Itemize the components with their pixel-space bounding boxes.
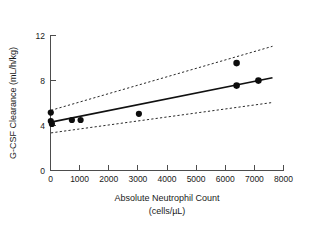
axis-titles: G-CSF Clearance (mL/h/kg) Absolute Neutr… — [8, 47, 220, 216]
data-point — [48, 110, 54, 116]
x-tick-label-7000: 7000 — [245, 174, 264, 184]
scatter-plot-figure: 12 8 4 0 0 1000 2000 3000 4000 5000 6000 — [0, 0, 314, 229]
data-point — [136, 111, 142, 117]
data-point — [69, 117, 75, 123]
x-axis-units-label: (cells/µL) — [149, 206, 186, 216]
y-tick-marks — [51, 36, 57, 171]
x-tick-label-1000: 1000 — [70, 174, 89, 184]
x-tick-labels: 0 1000 2000 3000 4000 5000 6000 7000 800… — [48, 174, 293, 184]
x-tick-label-2000: 2000 — [99, 174, 118, 184]
x-axis-title: Absolute Neutrophil Count — [114, 193, 220, 203]
y-axis-title: G-CSF Clearance (mL/h/kg) — [8, 47, 18, 159]
data-point — [255, 77, 262, 84]
data-point — [233, 60, 240, 67]
y-tick-label-0: 0 — [40, 166, 45, 176]
data-point — [233, 82, 240, 89]
x-tick-label-5000: 5000 — [187, 174, 206, 184]
confidence-band-group — [51, 46, 273, 133]
y-tick-label-12: 12 — [36, 31, 46, 41]
y-tick-label-8: 8 — [40, 76, 45, 86]
y-tick-label-4: 4 — [40, 121, 45, 131]
x-tick-label-0: 0 — [48, 174, 53, 184]
y-tick-labels: 12 8 4 0 — [36, 31, 46, 176]
x-tick-label-4000: 4000 — [158, 174, 177, 184]
x-tick-marks — [51, 165, 284, 171]
x-tick-label-6000: 6000 — [216, 174, 235, 184]
axes-group — [50, 35, 284, 171]
x-tick-label-3000: 3000 — [128, 174, 147, 184]
lower-confidence-band — [51, 103, 273, 133]
chart-canvas: 12 8 4 0 0 1000 2000 3000 4000 5000 6000 — [0, 0, 314, 229]
data-point — [49, 121, 55, 127]
x-tick-label-8000: 8000 — [274, 174, 293, 184]
data-point — [78, 117, 84, 123]
